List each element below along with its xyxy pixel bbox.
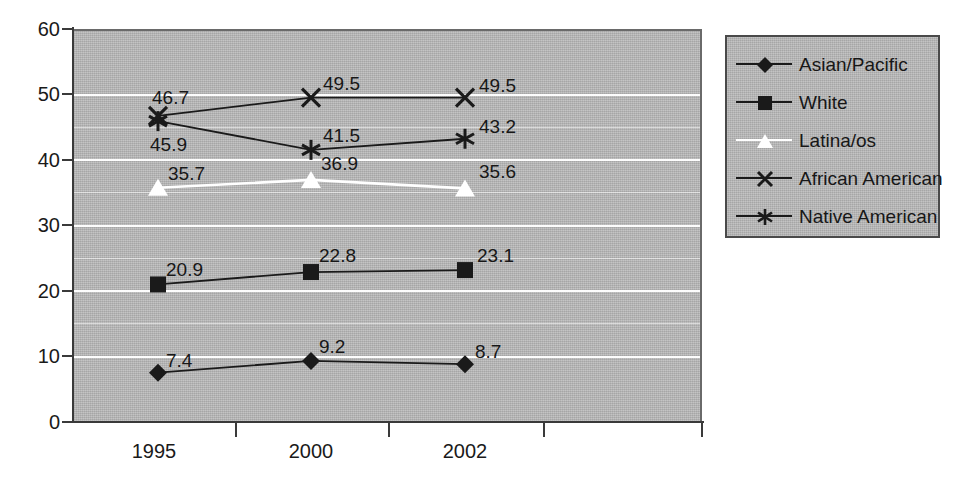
legend-item-latina-os[interactable]: Latina/os: [727, 121, 938, 159]
chart-figure: 60 50 40 30 20 10 0 1995 2000 2002 7.49.…: [0, 0, 974, 480]
x-axis-tick-label: 1995: [84, 440, 224, 462]
data-point-label: 8.7: [475, 342, 501, 361]
y-axis-tick: [62, 421, 73, 423]
data-point-label: 46.7: [152, 88, 189, 107]
legend-item-african-american[interactable]: African American: [727, 159, 938, 197]
y-axis-tick: [62, 28, 73, 30]
y-axis-tick-label: 60: [0, 19, 60, 39]
data-point-label: 35.7: [168, 164, 205, 183]
legend-item-native-american[interactable]: Native American: [727, 197, 938, 235]
x-axis-tick: [543, 423, 545, 437]
square-marker-icon: [736, 91, 792, 113]
data-point-label: 41.5: [323, 126, 360, 145]
data-point-label: 45.9: [150, 135, 187, 154]
legend-item-white[interactable]: White: [727, 83, 938, 121]
y-axis-tick-label: 40: [0, 150, 60, 170]
gridline-minor: [73, 323, 700, 324]
legend-item-label: Native American: [799, 207, 937, 226]
data-point-label: 20.9: [166, 260, 203, 279]
gridline-minor: [73, 127, 700, 128]
y-axis-tick-label: 20: [0, 281, 60, 301]
data-point-label: 7.4: [166, 351, 192, 370]
data-point-label: 49.5: [323, 74, 360, 93]
triangle-marker-icon: [736, 129, 792, 151]
data-point-label: 9.2: [319, 337, 345, 356]
legend-item-label: White: [799, 93, 848, 112]
y-axis-tick: [62, 355, 73, 357]
data-point-label: 35.6: [479, 162, 516, 181]
data-point-label: 49.5: [479, 76, 516, 95]
y-axis-tick-label: 0: [0, 412, 60, 432]
data-point-label: 23.1: [477, 246, 514, 265]
gridline-major: [73, 159, 700, 161]
asterisk-marker-icon: [736, 205, 792, 227]
diamond-marker-icon: [736, 53, 792, 75]
data-point-label: 36.9: [321, 154, 358, 173]
x-axis-tick: [235, 423, 237, 437]
y-axis-tick-label: 50: [0, 84, 60, 104]
y-axis-tick: [62, 93, 73, 95]
y-axis-tick: [62, 224, 73, 226]
x-axis-tick: [701, 423, 703, 437]
y-axis-tick: [62, 290, 73, 292]
y-axis-tick: [62, 159, 73, 161]
data-point-label: 22.8: [319, 246, 356, 265]
x-axis-tick-label: 2002: [395, 440, 535, 462]
chart-legend: Asian/Pacific White Latina/os: [725, 35, 940, 238]
gridline-major: [73, 290, 700, 292]
y-axis-tick-label: 10: [0, 346, 60, 366]
legend-item-label: African American: [799, 169, 943, 188]
data-point-label: 43.2: [479, 117, 516, 136]
y-axis-tick-label: 30: [0, 215, 60, 235]
legend-item-label: Asian/Pacific: [799, 55, 908, 74]
legend-item-label: Latina/os: [799, 131, 876, 150]
x-axis-tick-label: 2000: [241, 440, 381, 462]
x-axis-tick: [388, 423, 390, 437]
gridline-minor: [73, 192, 700, 193]
legend-item-asian-pacific[interactable]: Asian/Pacific: [727, 45, 938, 83]
gridline-major: [73, 225, 700, 227]
cross-marker-icon: [736, 167, 792, 189]
